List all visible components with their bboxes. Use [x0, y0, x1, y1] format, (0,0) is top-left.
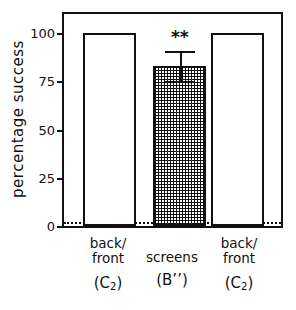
y-tick-label-100: 100 — [30, 26, 55, 41]
bar-back-front-c2-left — [83, 33, 136, 226]
x-label-code-1: (B’’) — [146, 272, 198, 289]
bar-back-front-c2-right — [211, 33, 264, 226]
y-tick-mark-0 — [57, 226, 64, 228]
x-label-line1-2: back/ — [221, 236, 258, 251]
plot-inner: 100 75 50 25 0 — [64, 14, 281, 226]
y-tick-mark-100 — [57, 33, 64, 35]
x-label-code-2: (C2) — [221, 275, 258, 292]
y-tick-label-75: 75 — [38, 74, 55, 89]
x-tick-label-group-2: back/ front (C2) — [221, 236, 258, 292]
x-tick-label-group-0: back/ front (C2) — [90, 236, 127, 292]
error-bar-line-screens — [180, 51, 182, 82]
y-axis-title: percentage success — [9, 9, 27, 229]
x-label-line2-0: front — [90, 251, 127, 266]
y-tick-mark-25 — [57, 178, 64, 180]
x-label-code-post-2: ) — [247, 274, 253, 292]
x-label-code-post-1: ) — [182, 271, 188, 289]
bar-screens-b — [153, 66, 206, 226]
x-label-line1-0: back/ — [90, 236, 127, 251]
bar-chart-figure: percentage success 100 75 50 25 — [0, 0, 296, 310]
x-label-code-0: (C2) — [90, 275, 127, 292]
x-label-line1-1: screens — [146, 250, 198, 265]
y-tick-mark-50 — [57, 130, 64, 132]
y-tick-mark-75 — [57, 81, 64, 83]
y-tick-label-50: 50 — [38, 122, 55, 137]
y-tick-label-25: 25 — [38, 170, 55, 185]
error-bar-cap-lower-screens — [165, 81, 195, 83]
x-label-code-pre-0: (C — [94, 274, 110, 292]
error-bar-cap-upper-screens — [165, 51, 195, 53]
x-label-code-pre-2: (C — [225, 274, 241, 292]
y-tick-label-0: 0 — [47, 219, 55, 234]
x-label-line2-2: front — [221, 251, 258, 266]
significance-stars: ** — [171, 29, 189, 46]
x-label-code-pre-1: (B’’ — [156, 271, 182, 289]
x-tick-label-group-1: screens (B’’) — [146, 250, 198, 289]
plot-area: 100 75 50 25 0 — [62, 12, 283, 228]
x-label-code-post-0: ) — [116, 274, 122, 292]
